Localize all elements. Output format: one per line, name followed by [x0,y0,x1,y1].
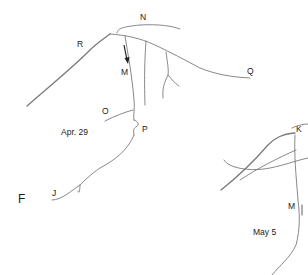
label-j: J [52,189,56,198]
branch-r [27,34,110,106]
label-k: K [296,125,302,134]
may-branch-m [272,135,299,275]
label-q: Q [247,67,254,76]
branch-m [125,36,134,120]
label-n: N [140,13,146,22]
date-apr-29: Apr. 29 [61,128,88,137]
branch-vertical-2 [145,41,146,105]
branch-j [52,135,134,200]
label-p: P [142,125,148,134]
loop-p [134,120,139,135]
branch-o [105,110,133,121]
label-m: M [121,68,128,77]
may-branch-main [221,133,295,190]
date-may-5: May 5 [253,228,276,237]
label-m-may: M [288,202,295,211]
label-r: R [77,40,83,49]
branch-n [117,25,180,33]
label-o: O [102,107,109,116]
panel-label: F [18,193,25,205]
